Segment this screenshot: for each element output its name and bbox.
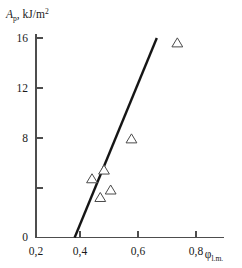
data-point-marker [87,174,98,183]
x-ticklabel-0-6: 0,6 [131,245,146,258]
linear-fit-line [75,38,157,238]
data-point-marker [105,185,116,194]
x-ticklabel-0-4: 0,4 [73,245,88,258]
x-ticklabel-0-2: 0,2 [29,245,44,258]
x-ticklabel-0-8: 0,8 [189,245,204,258]
data-point-marker [126,134,137,143]
scatter-plot: Ap, kJ/m2 16 12 8 0 0,2 0,4 0,6 0,8 φl.m… [0,0,242,268]
y-ticklabel-12: 12 [17,82,29,94]
y-axis-title: Ap, kJ/m2 [5,7,49,23]
chart-container: Ap, kJ/m2 16 12 8 0 0,2 0,4 0,6 0,8 φl.m… [0,0,242,268]
y-axis-title-units: , kJ/m [17,8,45,21]
data-point-marker [172,38,183,47]
y-ticklabel-0: 0 [22,231,28,243]
y-ticklabel-8: 8 [22,132,28,144]
y-ticklabel-16: 16 [17,32,29,44]
data-point-marker [95,192,106,201]
x-axis-title-subscript: l.m. [211,254,223,263]
y-axis-title-exponent: 2 [45,7,49,16]
x-axis-title: φl.m. [205,248,224,263]
data-point-marker [99,165,110,174]
data-point-group [87,38,183,202]
